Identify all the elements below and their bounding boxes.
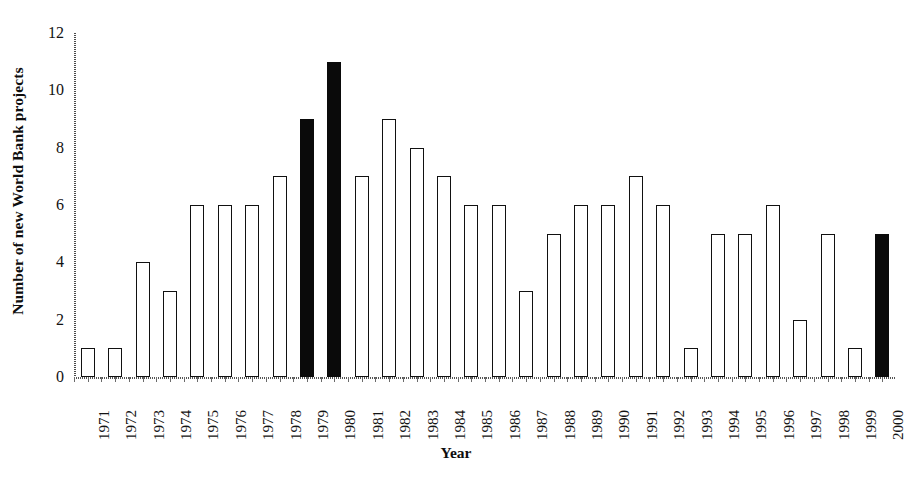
bar-1982 (382, 119, 396, 377)
bar-1976 (218, 205, 232, 377)
bar-1991 (629, 176, 643, 377)
bar-1978 (273, 176, 287, 377)
bar-1980 (327, 62, 341, 377)
y-axis-title-text: Number of new World Bank projects (9, 67, 27, 314)
plot-area (74, 33, 896, 377)
x-tick-label-1976: 1976 (232, 380, 250, 440)
x-axis-title-text: Year (441, 444, 472, 461)
bar-1997 (793, 320, 807, 377)
x-tick-label-1984: 1984 (451, 380, 469, 440)
bar-1994 (711, 234, 725, 377)
x-tick-label-1993: 1993 (698, 380, 716, 440)
x-tick-label-1999: 1999 (862, 380, 880, 440)
x-tick-label-1994: 1994 (725, 380, 743, 440)
bar-1972 (108, 348, 122, 377)
bar-1998 (821, 234, 835, 377)
x-tick-label-1996: 1996 (780, 380, 798, 440)
x-tick-label-1982: 1982 (396, 380, 414, 440)
bar-1984 (437, 176, 451, 377)
x-tick-label-1980: 1980 (341, 380, 359, 440)
bar-1974 (163, 291, 177, 377)
bar-1986 (492, 205, 506, 377)
x-axis-title: Year (0, 444, 912, 462)
bar-1985 (464, 205, 478, 377)
x-tick-label-1978: 1978 (287, 380, 305, 440)
bar-1973 (136, 262, 150, 377)
x-tick-label-1990: 1990 (615, 380, 633, 440)
x-tick-label-1981: 1981 (369, 380, 387, 440)
x-tick-label-2000: 2000 (889, 380, 907, 440)
x-tick-label-1975: 1975 (204, 380, 222, 440)
bar-1999 (848, 348, 862, 377)
bar-1977 (245, 205, 259, 377)
bar-1983 (410, 148, 424, 377)
bar-1979 (300, 119, 314, 377)
y-tick-label: 2 (56, 312, 64, 328)
x-tick-label-1973: 1973 (150, 380, 168, 440)
bar-1992 (656, 205, 670, 377)
x-tick-label-1989: 1989 (588, 380, 606, 440)
x-tick-label-1991: 1991 (643, 380, 661, 440)
bar-1988 (547, 234, 561, 377)
bar-1987 (519, 291, 533, 377)
x-axis-tick-labels: 1971197219731974197519761977197819791980… (74, 382, 896, 440)
bar-1993 (684, 348, 698, 377)
x-tick-label-1995: 1995 (752, 380, 770, 440)
bar-1971 (81, 348, 95, 377)
x-tick-label-1979: 1979 (314, 380, 332, 440)
bar-1996 (766, 205, 780, 377)
bar-2000 (875, 234, 889, 377)
x-tick-label-1992: 1992 (670, 380, 688, 440)
y-tick-label: 0 (56, 369, 64, 385)
x-tick-label-1972: 1972 (122, 380, 140, 440)
x-tick-label-1998: 1998 (835, 380, 853, 440)
x-tick-label-1987: 1987 (533, 380, 551, 440)
bar-1981 (355, 176, 369, 377)
bar-1990 (601, 205, 615, 377)
x-tick-label-1988: 1988 (561, 380, 579, 440)
y-axis-title: Number of new World Bank projects (0, 0, 36, 382)
x-tick-label-1974: 1974 (177, 380, 195, 440)
x-tick-label-1983: 1983 (424, 380, 442, 440)
y-axis-line (74, 33, 76, 378)
y-tick-label: 6 (56, 197, 64, 213)
y-tick-label: 8 (56, 140, 64, 156)
x-tick-label-1997: 1997 (807, 380, 825, 440)
x-tick-label-1977: 1977 (259, 380, 277, 440)
bar-chart-figure: Number of new World Bank projects 024681… (0, 0, 912, 479)
x-tick-label-1985: 1985 (478, 380, 496, 440)
x-tick-label-1986: 1986 (506, 380, 524, 440)
y-tick-label: 10 (48, 82, 64, 98)
bar-1989 (574, 205, 588, 377)
bar-1995 (738, 234, 752, 377)
x-tick-label-1971: 1971 (95, 380, 113, 440)
y-tick-label: 4 (56, 254, 64, 270)
y-axis-tick-labels: 024681012 (36, 0, 70, 390)
y-tick-label: 12 (48, 25, 64, 41)
bar-1975 (190, 205, 204, 377)
